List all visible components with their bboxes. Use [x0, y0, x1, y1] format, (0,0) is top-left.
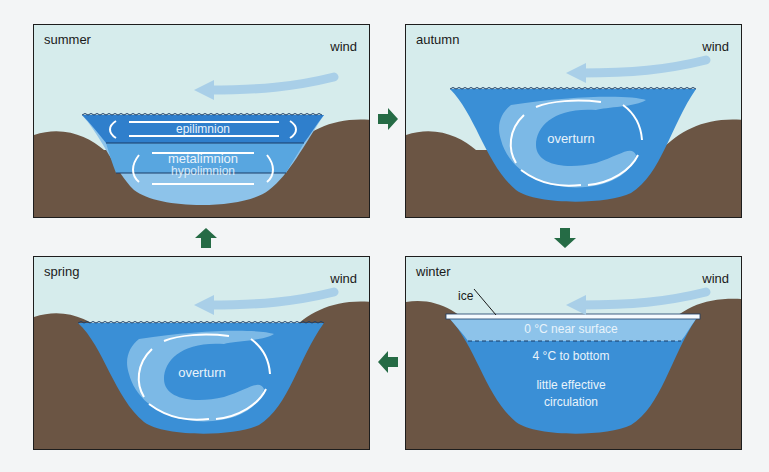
season-label: autumn — [416, 32, 459, 47]
panel-summer: summer wind epilimnion metalimnion hypol… — [33, 24, 370, 218]
ice-label: ice — [458, 289, 473, 303]
overturn-label: overturn — [547, 131, 595, 146]
overturn-label: overturn — [178, 365, 226, 380]
hypolimnion-label: hypolimnion — [171, 164, 235, 178]
wind-label: wind — [330, 271, 357, 286]
arrow-up-icon — [194, 226, 218, 250]
arrow-left-icon — [376, 350, 400, 374]
wind-label: wind — [702, 271, 729, 286]
wind-label: wind — [702, 39, 729, 54]
arrow-right-icon — [376, 107, 400, 131]
season-label: spring — [44, 264, 79, 279]
season-label: winter — [416, 264, 451, 279]
panel-autumn: autumn wind overturn — [405, 24, 742, 218]
panel-spring: spring wind overturn — [33, 256, 370, 450]
circulation-note-line1: little effective — [536, 378, 605, 392]
circulation-note-line2: circulation — [544, 395, 598, 409]
panel-winter: winter wind ice 0 °C near surface 4 °C t… — [405, 256, 742, 450]
wind-label: wind — [330, 39, 357, 54]
bottom-temp-label: 4 °C to bottom — [533, 349, 610, 363]
epilimnion-label: epilimnion — [176, 122, 230, 136]
lake-cross-section — [34, 257, 370, 450]
lake-cross-section — [406, 25, 742, 218]
season-label: summer — [44, 32, 91, 47]
surface-temp-label: 0 °C near surface — [524, 322, 618, 336]
arrow-down-icon — [553, 226, 577, 250]
